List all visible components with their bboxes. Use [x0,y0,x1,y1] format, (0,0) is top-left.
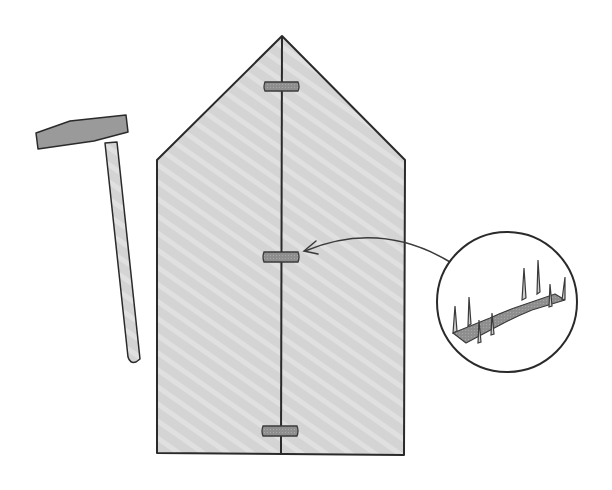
fastener-middle-icon [263,252,299,262]
hammer-handle [105,142,140,362]
board-panel [157,36,405,455]
fastener-top-icon [264,82,299,91]
board-seam [281,36,282,453]
fastener-bottom-icon [262,426,298,436]
illustration-canvas [0,0,612,490]
callout-magnifier [437,232,577,372]
hammer-icon [36,115,140,362]
